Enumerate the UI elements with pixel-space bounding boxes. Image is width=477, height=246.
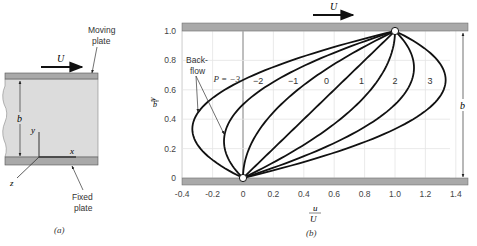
y-tick-label: 0.4 <box>164 114 176 124</box>
backflow-leader-1 <box>196 76 198 112</box>
velocity-profile-curve <box>224 31 395 178</box>
curve-label: −2 <box>253 76 263 86</box>
velocity-profile-curve <box>243 31 414 178</box>
velocity-label-b: U <box>330 1 338 12</box>
moving-plate-b <box>182 23 468 31</box>
x-axis-label-a: x <box>69 146 74 156</box>
x-tick-label: 0.4 <box>298 189 310 199</box>
y-tick-label: 0 <box>171 173 176 183</box>
moving-plate-leader <box>92 47 97 73</box>
x-tick-label: 1.2 <box>419 189 431 199</box>
backflow-label-line2: flow <box>190 66 206 76</box>
x-axis-label-num: u <box>313 203 318 213</box>
caption-a: (a) <box>54 225 65 235</box>
x-tick-label: 0.6 <box>328 189 340 199</box>
panel-b: -0.4-0.200.20.40.60.81.01.21.400.20.40.6… <box>148 1 468 238</box>
couette-flow-figure: U Moving plate b y x z Fixed plate (a) -… <box>0 0 477 246</box>
y-tick-label: 0.6 <box>164 85 176 95</box>
y-axis-label-a: y <box>30 125 35 135</box>
panel-a: U Moving plate b y x z Fixed plate (a) <box>3 25 116 235</box>
x-tick-label: 1.0 <box>389 189 401 199</box>
x-tick-label: 1.4 <box>450 189 462 199</box>
x-axis-label-den: U <box>310 214 317 224</box>
fixed-plate-label-line2: plate <box>74 203 93 213</box>
y-tick-label: 0.8 <box>164 55 176 65</box>
caption-b: (b) <box>306 228 317 238</box>
curve-label: P = −3 <box>212 74 240 84</box>
top-node-icon <box>391 27 398 34</box>
curve-label: 0 <box>324 76 329 86</box>
backflow-label-line1: Back- <box>186 55 208 65</box>
curve-labels: P = −3−2−10123 <box>212 74 432 85</box>
x-tick-label: 0 <box>241 189 246 199</box>
velocity-profiles <box>192 31 445 178</box>
fixed-plate-b <box>182 178 468 185</box>
y-tick-label: 0.2 <box>164 144 176 154</box>
fixed-plate-leader <box>72 166 83 190</box>
backflow-leader-2 <box>196 76 224 134</box>
gap-label-b: b <box>460 100 465 111</box>
curve-label: 1 <box>359 76 364 86</box>
bottom-node-icon <box>239 174 246 181</box>
x-tick-label: -0.2 <box>205 189 220 199</box>
moving-plate-label-line1: Moving <box>88 25 116 35</box>
x-tick-label: -0.4 <box>175 189 190 199</box>
curve-label: 3 <box>427 76 432 86</box>
z-axis-label-a: z <box>9 178 14 188</box>
velocity-profile-curve <box>243 31 395 178</box>
x-tick-label: 0.8 <box>359 189 371 199</box>
gap-label-a: b <box>17 113 22 124</box>
moving-plate <box>5 73 98 79</box>
fixed-plate-label-line1: Fixed <box>72 192 93 202</box>
chart-ticks: -0.4-0.200.20.40.60.81.01.21.400.20.40.6… <box>164 26 462 199</box>
y-axis-label-den: b <box>153 100 157 109</box>
curve-label: 2 <box>392 76 397 86</box>
velocity-label-a: U <box>57 53 65 64</box>
y-tick-label: 1.0 <box>164 26 176 36</box>
moving-plate-label-line2: plate <box>92 36 111 46</box>
curve-label: −1 <box>288 76 298 86</box>
x-tick-label: 0.2 <box>267 189 279 199</box>
fixed-plate <box>5 157 98 165</box>
